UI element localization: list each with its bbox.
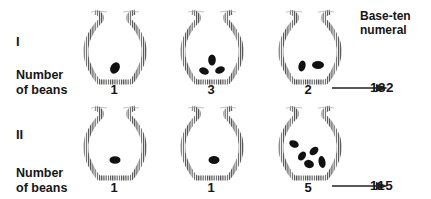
bean	[214, 65, 226, 75]
numeral-i: 132	[370, 80, 394, 95]
base-ten-header: Base-ten numeral	[360, 9, 411, 37]
pot-ii-1	[75, 104, 155, 184]
pot-i-1	[75, 8, 155, 88]
number-of-beans-label-ii: Number of beans	[16, 166, 67, 196]
bean	[110, 156, 121, 164]
bean	[318, 155, 327, 168]
bean	[288, 139, 300, 150]
bean	[312, 61, 324, 69]
pot-ii-2	[172, 104, 252, 184]
bean	[209, 156, 220, 164]
bean	[297, 60, 307, 72]
bean	[308, 145, 320, 157]
number-of-beans-label-i: Number of beans	[16, 68, 67, 98]
bean	[296, 150, 307, 162]
pot-ii-2-count: 1	[201, 180, 221, 195]
pot-ii-3	[270, 104, 350, 184]
pot-i-3	[270, 8, 350, 88]
pot-i-3-count: 2	[298, 82, 318, 97]
bean	[208, 55, 216, 66]
header-line-2: numeral	[360, 23, 411, 37]
row-label-i: I	[16, 34, 20, 49]
bean	[198, 66, 210, 76]
pot-ii-3-count: 5	[298, 180, 318, 195]
numeral-ii: 115	[370, 178, 393, 193]
pot-ii-1-count: 1	[104, 180, 124, 195]
bean	[108, 61, 122, 76]
pot-i-2-count: 3	[201, 82, 221, 97]
row-label-ii: II	[16, 127, 23, 142]
pot-i-1-count: 1	[104, 82, 124, 97]
bean	[303, 159, 315, 170]
header-line-1: Base-ten	[360, 9, 411, 23]
pot-i-2	[172, 8, 252, 88]
